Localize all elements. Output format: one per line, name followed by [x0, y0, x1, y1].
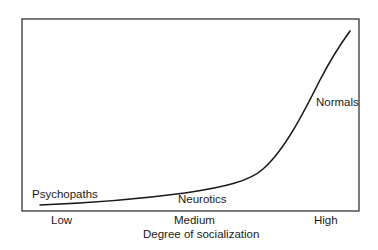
x-tick-high: High [314, 215, 338, 227]
annotation-psychopaths: Psychopaths [32, 189, 98, 201]
x-tick-medium: Medium [174, 215, 215, 227]
chart-canvas [0, 0, 378, 250]
x-axis-title: Degree of socialization [143, 229, 259, 241]
x-tick-low: Low [51, 215, 72, 227]
annotation-normals: Normals [316, 97, 359, 109]
plot-frame [22, 19, 359, 211]
socialization-curve [40, 31, 350, 205]
annotation-neurotics: Neurotics [178, 194, 227, 206]
